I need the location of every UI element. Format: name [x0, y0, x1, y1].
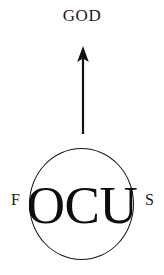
focus-suffix-letter: S [145, 190, 154, 210]
god-label: GOD [0, 6, 164, 26]
diagram-canvas: GOD F OCU S [0, 0, 164, 275]
up-arrow-icon [63, 44, 103, 136]
focus-word-group: F OCU S [0, 140, 164, 268]
focus-circled-letters: OCU [0, 140, 164, 268]
